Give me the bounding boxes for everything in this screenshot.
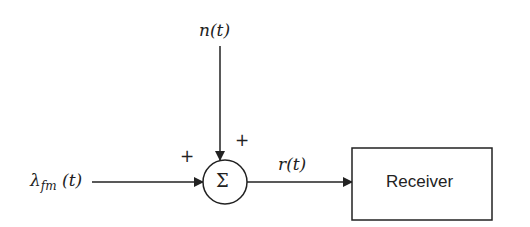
receiver-label: Receiver [386,172,453,192]
diagram-canvas [0,0,530,227]
input-signal-label: λfm (t) [30,170,82,190]
input-signal-sign: + [180,146,194,166]
noise-label: n(t) [199,20,230,40]
lambda-subscript: fm [41,179,57,193]
noise-sign: + [235,130,249,150]
sigma-symbol: Σ [216,170,229,191]
output-label: r(t) [278,154,306,174]
lambda-argument: (t) [57,170,83,190]
lambda-symbol: λ [30,170,41,190]
